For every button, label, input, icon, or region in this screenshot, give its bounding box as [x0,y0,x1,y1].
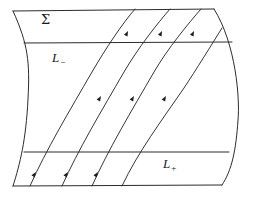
label-l-minus-subscript: − [60,57,65,67]
label-sigma: Σ [41,12,50,27]
flow-curve-1 [30,9,135,186]
arrow-3-high-icon [190,30,196,36]
label-l-minus-base: L [51,50,59,65]
flow-curve-2 [62,9,170,186]
arrow-3-mid-icon [162,95,168,102]
flow-box-diagram: Σ L− L+ [0,0,256,199]
boundary-left-edge [13,11,29,186]
exit-line-l-minus [24,42,232,43]
boundary-top-edge [13,9,214,11]
boundary-bottom-edge [13,185,222,186]
arrow-1-high-icon [124,30,130,36]
label-l-plus-base: L [162,156,170,171]
arrow-2-high-icon [158,30,164,36]
flow-curve-3 [92,9,201,186]
arrow-2-mid-icon [130,95,136,102]
label-l-plus: L+ [162,156,176,173]
label-l-plus-subscript: + [171,163,176,173]
arrow-1-mid-icon [97,95,103,102]
label-l-minus: L− [51,50,65,67]
figure-container: Σ L− L+ [0,0,256,199]
